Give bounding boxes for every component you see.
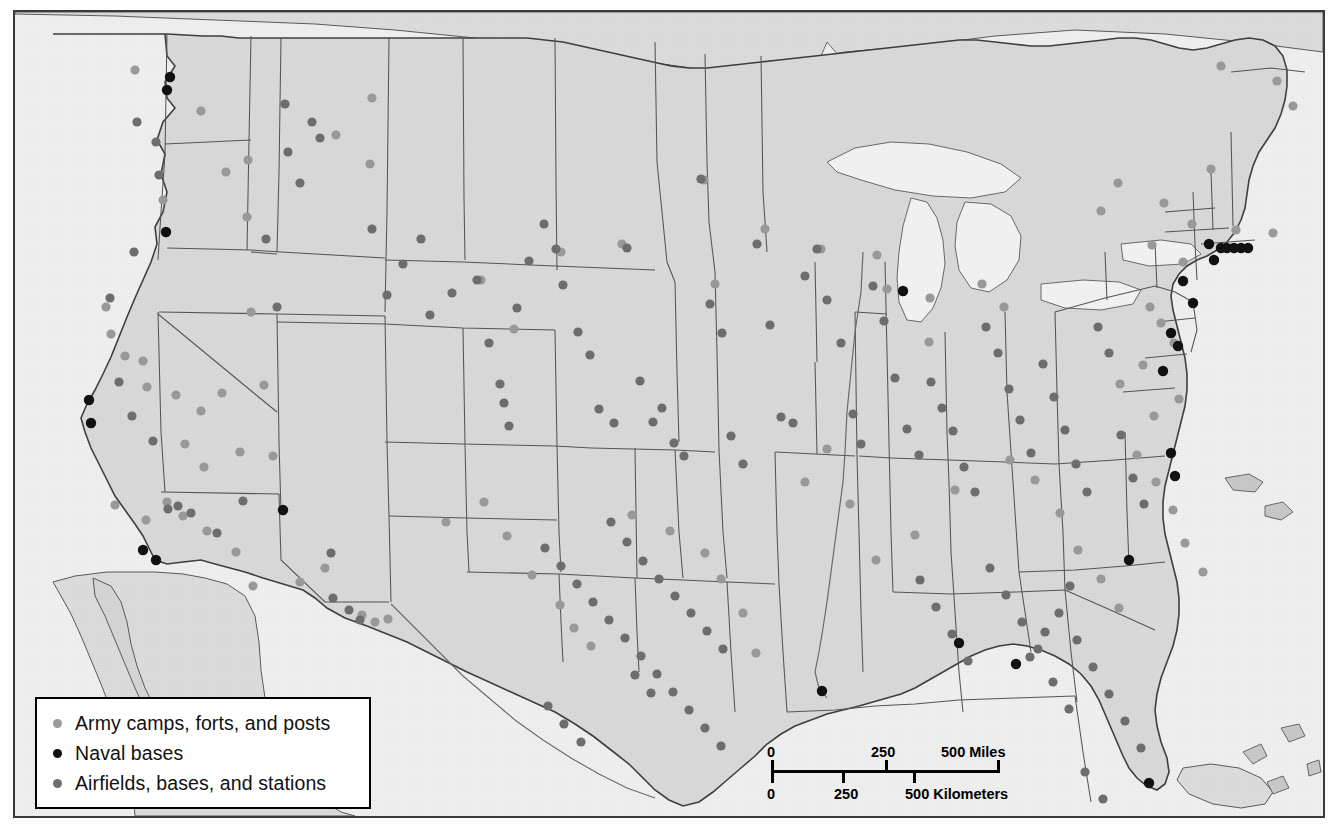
installation-marker [142,382,151,391]
installation-marker [1073,545,1082,554]
installation-marker [638,556,647,565]
installation-marker [1204,239,1214,249]
installation-marker [985,563,994,572]
installation-marker [246,307,255,316]
installation-marker [326,548,335,557]
installation-marker [1136,743,1145,752]
installation-marker [259,380,268,389]
installation-marker [283,147,292,156]
installation-marker [1132,450,1141,459]
installation-marker [527,570,536,579]
installation-marker [606,517,615,526]
installation-marker [272,302,281,311]
installation-marker [760,224,769,233]
installation-marker [931,602,940,611]
installation-marker [1049,392,1058,401]
installation-marker [700,723,709,732]
installation-marker [558,280,567,289]
installation-marker [512,303,521,312]
installation-marker [800,271,809,280]
installation-marker [1088,662,1097,671]
installation-marker [1128,473,1137,482]
installation-marker [499,398,508,407]
installation-marker [138,545,148,555]
installation-marker [248,581,257,590]
installation-marker [1288,101,1297,110]
installation-marker [924,337,933,346]
installation-marker [836,338,845,347]
installation-marker [1017,617,1026,626]
installation-marker [970,487,979,496]
installation-marker [1180,538,1189,547]
installation-marker [1072,635,1081,644]
installation-marker [217,388,226,397]
scale-tick-km-0 [771,770,774,783]
installation-marker [882,284,891,293]
installation-marker [367,93,376,102]
installation-marker [344,605,353,614]
installation-marker [788,418,797,427]
installation-marker [576,737,585,746]
installation-marker [328,593,337,602]
installation-marker [738,459,747,468]
installation-marker [586,641,595,650]
installation-marker [585,350,594,359]
installation-marker [540,543,549,552]
scale-tick-km-250 [842,770,845,783]
installation-marker [752,239,761,248]
installation-marker [231,547,240,556]
legend-item-airfield[interactable]: Airfields, bases, and stations [37,768,369,798]
installation-marker [1040,627,1049,636]
installation-marker [105,293,114,302]
installation-marker [173,501,182,510]
installation-marker [1065,581,1074,590]
legend-item-naval[interactable]: Naval bases [37,738,369,768]
installation-marker [665,526,674,535]
installation-marker [1178,257,1187,266]
installation-marker [479,497,488,506]
installation-marker [1025,652,1034,661]
installation-marker [726,431,735,440]
installation-marker [1015,415,1024,424]
installation-marker [367,224,376,233]
installation-marker [822,295,831,304]
installation-marker [148,436,157,445]
installation-marker [365,159,374,168]
installation-marker [1080,767,1089,776]
installation-marker [524,256,533,265]
installation-marker [132,117,141,126]
installation-marker [1187,219,1196,228]
installation-marker [871,555,880,564]
installation-marker [902,424,911,433]
installation-marker [890,373,899,382]
scale-tick-km-500 [913,770,916,783]
installation-marker [765,320,774,329]
installation-marker [999,302,1008,311]
installation-marker [1156,318,1165,327]
installation-marker [898,286,908,296]
installation-marker [977,279,986,288]
installation-marker [509,324,518,333]
installation-marker [668,687,677,696]
installation-marker [141,515,150,524]
scale-miles-0: 0 [767,744,775,760]
installation-marker [383,614,392,623]
installation-marker [1173,341,1183,351]
installation-marker [1145,302,1154,311]
installation-marker [1082,487,1091,496]
installation-marker [1115,379,1124,388]
installation-marker [238,496,247,505]
installation-marker [504,421,513,430]
installation-marker [845,499,854,508]
installation-marker [1124,555,1134,565]
installation-marker [868,281,877,290]
legend-item-army[interactable]: Army camps, forts, and posts [37,708,369,738]
installation-marker [120,351,129,360]
installation-marker [130,65,139,74]
installation-marker [106,329,115,338]
installation-marker [657,403,666,412]
map-page: Army camps, forts, and posts Naval bases… [0,0,1338,838]
installation-marker [1030,475,1039,484]
installation-marker [800,477,809,486]
installation-marker [441,517,450,526]
